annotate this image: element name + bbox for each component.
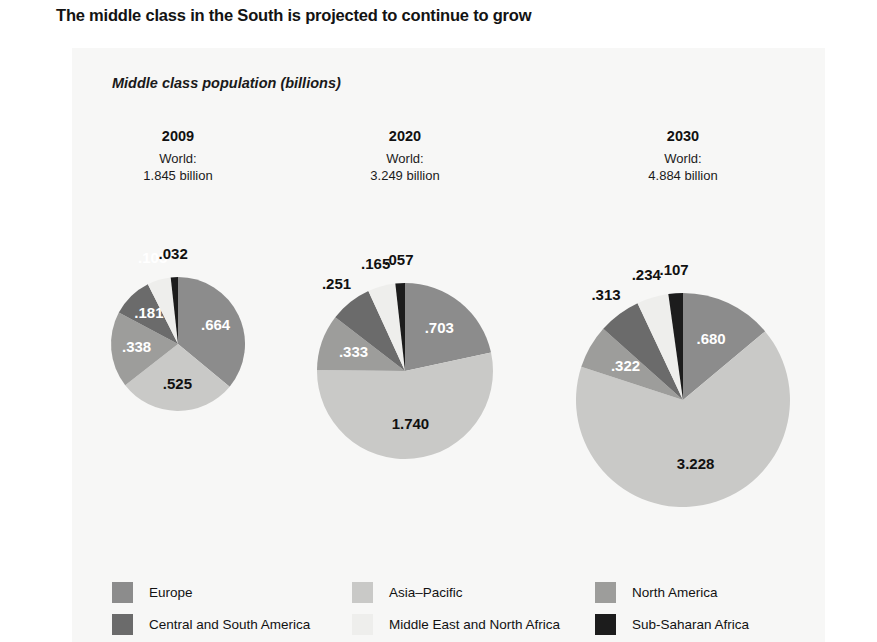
- pie-world-caption: World:: [370, 151, 439, 168]
- legend-swatch-icon: [595, 614, 616, 635]
- pie-slice-value: 1.740: [392, 415, 430, 432]
- pie-header-2020: 2020World:3.249 billion: [370, 127, 439, 185]
- legend-swatch-icon: [112, 582, 133, 603]
- pie-year-label: 2020: [370, 127, 439, 145]
- pie-slice-value: .107: [659, 261, 688, 278]
- legend-label: Sub-Saharan Africa: [632, 617, 749, 632]
- pie-header-2030: 2030World:4.884 billion: [648, 127, 717, 185]
- pie-slice-value: .234: [632, 266, 662, 283]
- pie-slice-value: .032: [159, 245, 188, 262]
- chart-legend: EuropeAsia–PacificNorth AmericaCentral a…: [112, 576, 812, 640]
- pie-chart-2020: .7031.740.333.251.165.057: [259, 225, 551, 517]
- pie-slice-value: .680: [696, 330, 725, 347]
- pie-slice-value: .251: [322, 275, 351, 292]
- pie-world-caption: World:: [143, 151, 212, 168]
- pie-slice-value: .664: [201, 316, 231, 333]
- pie-slice-value: .181: [134, 304, 163, 321]
- pie-world-total: 1.845 billion: [143, 168, 212, 185]
- legend-item[interactable]: Sub-Saharan Africa: [595, 614, 795, 635]
- pie-year-label: 2009: [143, 127, 212, 145]
- pie-slice-value: .338: [122, 338, 151, 355]
- pie-header-2009: 2009World:1.845 billion: [143, 127, 212, 185]
- chart-axis-label: Middle class population (billions): [112, 75, 341, 91]
- legend-row: EuropeAsia–PacificNorth America: [112, 576, 812, 608]
- pie-slice-value: .313: [591, 286, 620, 303]
- pie-world-caption: World:: [648, 151, 717, 168]
- pie-slice-value: .525: [163, 375, 192, 392]
- legend-swatch-icon: [595, 582, 616, 603]
- pie-chart-2030: .6803.228.322.313.234.107: [518, 235, 848, 565]
- legend-swatch-icon: [352, 614, 373, 635]
- pie-world-total: 4.884 billion: [648, 168, 717, 185]
- pie-world-total: 3.249 billion: [370, 168, 439, 185]
- pie-slice-value: 3.228: [677, 455, 715, 472]
- legend-label: Central and South America: [149, 617, 310, 632]
- legend-item[interactable]: Europe: [112, 582, 352, 603]
- legend-item[interactable]: North America: [595, 582, 795, 603]
- legend-item[interactable]: Central and South America: [112, 614, 352, 635]
- legend-row: Central and South AmericaMiddle East and…: [112, 608, 812, 640]
- legend-label: Europe: [149, 585, 193, 600]
- legend-swatch-icon: [112, 614, 133, 635]
- pie-slice-value: .322: [611, 357, 640, 374]
- legend-swatch-icon: [352, 582, 373, 603]
- legend-item[interactable]: Middle East and North Africa: [352, 614, 595, 635]
- pie-slice-value: .703: [425, 319, 454, 336]
- legend-label: Middle East and North Africa: [389, 617, 560, 632]
- page-title: The middle class in the South is project…: [56, 6, 531, 25]
- legend-label: Asia–Pacific: [389, 585, 463, 600]
- pie-year-label: 2030: [648, 127, 717, 145]
- pie-slice-value: .057: [384, 251, 413, 268]
- legend-item[interactable]: Asia–Pacific: [352, 582, 595, 603]
- pie-slice-value: .333: [339, 343, 368, 360]
- chart-panel: Middle class population (billions) 2009W…: [72, 48, 825, 642]
- legend-label: North America: [632, 585, 718, 600]
